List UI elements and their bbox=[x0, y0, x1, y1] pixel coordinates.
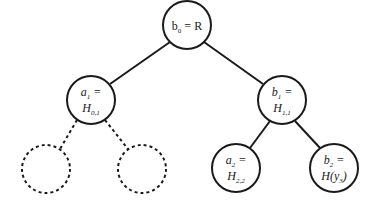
edge-a1-dashed-right bbox=[105, 120, 128, 149]
node-a1: a1 = H0,1 bbox=[67, 76, 115, 124]
node-root: b0 = R bbox=[163, 1, 211, 49]
node-a1-line1: a1 = bbox=[81, 85, 102, 101]
node-b2-line2: H(y3) bbox=[320, 169, 347, 185]
node-b1: b1 = H1,1 bbox=[258, 76, 306, 124]
node-b2: b2 = H(y3) bbox=[310, 144, 358, 192]
node-a2-line1: a2 = bbox=[226, 153, 247, 169]
node-b1-line1: b1 = bbox=[272, 85, 293, 101]
edge-root-a1 bbox=[110, 42, 170, 84]
edge-b1-b2 bbox=[295, 121, 320, 148]
node-root-label: b0 = R bbox=[172, 19, 202, 35]
tree-diagram: b0 = R a1 = H0,1 b1 = H1,1 a2 = H2,2 bbox=[0, 0, 374, 206]
node-b2-line1: b2 = bbox=[324, 153, 345, 169]
edge-root-b1 bbox=[204, 42, 263, 84]
node-a2: a2 = H2,2 bbox=[212, 144, 260, 192]
edge-b1-a2 bbox=[250, 121, 270, 148]
node-dashed-left bbox=[22, 145, 70, 193]
edge-a1-dashed-left bbox=[60, 120, 77, 149]
node-dashed-right bbox=[118, 145, 166, 193]
